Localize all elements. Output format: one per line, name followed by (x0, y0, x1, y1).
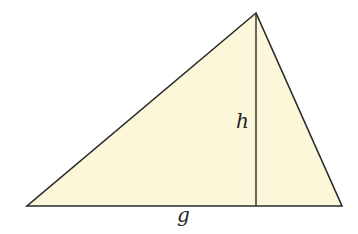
triangle-diagram: h g (0, 0, 358, 234)
height-label: h (236, 109, 249, 133)
base-label: g (177, 203, 190, 227)
triangle (27, 13, 342, 206)
